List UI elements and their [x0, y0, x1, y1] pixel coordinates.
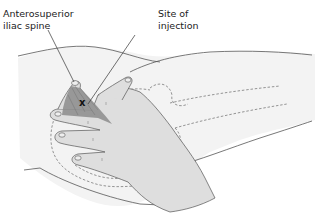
ring-fingernail — [59, 133, 65, 137]
injection-site-marker: x — [79, 97, 85, 108]
index-fingernail — [72, 81, 79, 86]
ventrogluteal-injection-diagram: Anterosuperior iliac spine Site of injec… — [0, 0, 315, 213]
middle-fingernail — [55, 112, 61, 116]
thumbnail — [125, 78, 131, 82]
little-fingernail — [75, 156, 81, 160]
label-site-of-injection: Site of injection — [158, 8, 199, 32]
label-anterosuperior-iliac-spine: Anterosuperior iliac spine — [3, 8, 74, 32]
